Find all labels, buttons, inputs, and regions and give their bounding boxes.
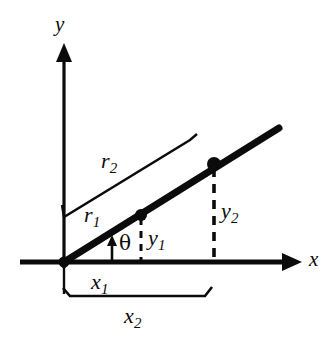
x1-label: x1 xyxy=(91,271,109,297)
theta-label: θ xyxy=(119,233,131,253)
y1-label-base: y xyxy=(148,225,158,250)
r2-measure-bracket xyxy=(62,134,197,217)
theta-angle-indicator xyxy=(107,235,117,262)
r2-label-base: r xyxy=(101,148,110,173)
x2-label-base: x xyxy=(124,303,134,328)
x1-label-base: x xyxy=(91,269,101,294)
r2-label: r2 xyxy=(101,150,117,176)
r1-label-base: r xyxy=(84,202,93,227)
y2-label-sub: 2 xyxy=(231,210,238,226)
y1-label: y1 xyxy=(148,227,166,253)
x2-measure-bracket xyxy=(63,287,212,296)
y-axis-label: y xyxy=(55,14,64,35)
x-axis-arrowhead xyxy=(282,253,302,271)
r1-label: r1 xyxy=(84,204,100,230)
figure-canvas xyxy=(0,0,330,338)
x2-label-sub: 2 xyxy=(134,315,141,331)
y2-label-base: y xyxy=(221,198,231,223)
r2-label-sub: 2 xyxy=(110,160,117,176)
geometry-figure: y x θ r1 r2 y1 y2 x1 x2 xyxy=(0,0,330,338)
x1-label-sub: 1 xyxy=(101,281,108,297)
r1-label-sub: 1 xyxy=(93,214,100,230)
main-ray xyxy=(64,128,279,262)
x-axis-label: x xyxy=(309,249,318,270)
y2-label: y2 xyxy=(221,200,239,226)
y-axis-arrowhead xyxy=(56,43,72,62)
y1-label-sub: 1 xyxy=(158,237,165,253)
x2-label: x2 xyxy=(124,305,142,331)
